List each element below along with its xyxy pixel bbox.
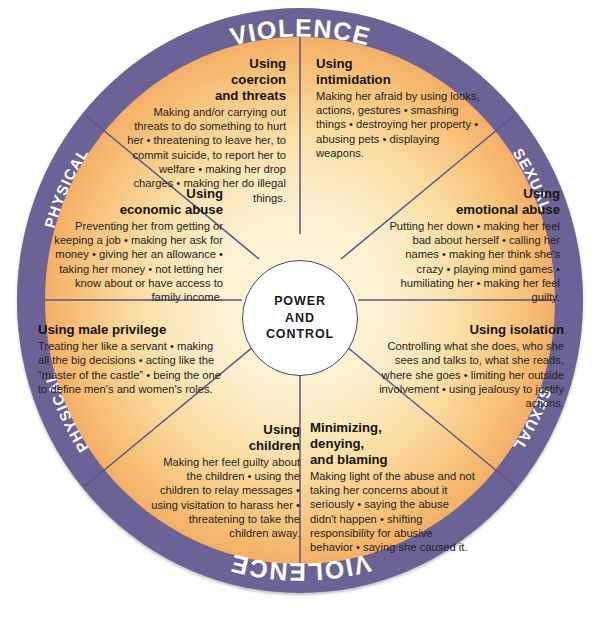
power-and-control-wheel: POWER AND CONTROL PHYSICAL VIOLENCE SEXU… <box>0 0 601 634</box>
wedge-body: Controlling what she does, who she sees … <box>378 339 564 411</box>
wedge-title: Usingemotional abuse <box>382 186 560 218</box>
wedge-minimizing-denying-blaming: Minimizing,denying,and blaming Making li… <box>310 420 476 555</box>
wedge-male-privilege: Using male privilege Treating her like a… <box>38 322 224 396</box>
wedge-body: Treating her like a servant • making all… <box>38 339 224 396</box>
hub-power-and-control: POWER AND CONTROL <box>242 260 358 376</box>
wedge-isolation: Using isolation Controlling what she doe… <box>378 322 564 410</box>
wedge-title: Usingeconomic abuse <box>48 186 223 218</box>
hub-line-power: POWER <box>274 293 326 310</box>
wedge-title: Usingintimidation <box>316 56 484 88</box>
hub-line-and: AND <box>285 310 315 327</box>
wedge-title: Using isolation <box>378 322 564 338</box>
wedge-coercion-and-threats: Usingcoercionand threats Making and/or c… <box>126 56 286 205</box>
hub-line-control: CONTROL <box>266 326 334 343</box>
wedge-emotional-abuse: Usingemotional abuse Putting her down • … <box>382 186 560 305</box>
wedge-title: Minimizing,denying,and blaming <box>310 420 476 468</box>
wedge-title: Usingchildren <box>150 422 300 454</box>
wedge-economic-abuse: Usingeconomic abuse Preventing her from … <box>48 186 223 305</box>
wedge-body: Making her feel guilty about the childre… <box>150 455 300 541</box>
wedge-body: Preventing her from getting or keeping a… <box>48 219 223 305</box>
wedge-intimidation: Usingintimidation Making her afraid by u… <box>316 56 484 160</box>
wedge-body: Putting her down • making her feel bad a… <box>382 219 560 305</box>
wedge-body: Making her afraid by using looks, action… <box>316 89 484 161</box>
wedge-title: Usingcoercionand threats <box>126 56 286 104</box>
wedge-using-children: Usingchildren Making her feel guilty abo… <box>150 422 300 541</box>
wedge-body: Making light of the abuse and not taking… <box>310 469 476 555</box>
wedge-title: Using male privilege <box>38 322 224 338</box>
